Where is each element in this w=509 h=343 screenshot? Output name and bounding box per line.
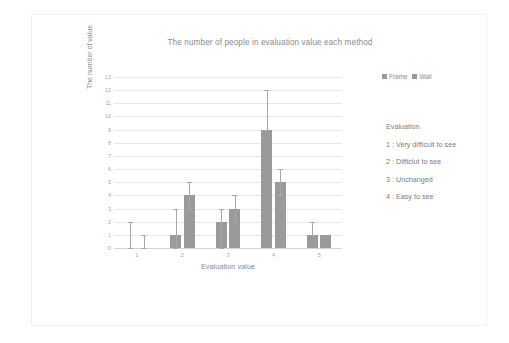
error-bar-cap xyxy=(278,169,283,170)
x-tick-label: 4 xyxy=(272,252,275,258)
error-bar xyxy=(130,222,131,248)
error-bar-cap xyxy=(232,195,237,196)
error-bar-cap xyxy=(219,248,224,249)
legend-label-frame: Frame xyxy=(389,73,407,80)
gridline xyxy=(114,130,342,131)
gridline xyxy=(114,222,342,223)
gridline xyxy=(114,77,342,78)
error-bar xyxy=(235,195,236,221)
y-tick-label: 7 xyxy=(108,153,111,159)
error-bar xyxy=(144,235,145,248)
y-tick-label: 1 xyxy=(108,232,111,238)
y-axis-title: The number of value xyxy=(86,2,93,112)
y-tick-label: 6 xyxy=(108,166,111,172)
error-bar-cap xyxy=(232,222,237,223)
error-bar-cap xyxy=(310,222,315,223)
error-bar xyxy=(280,169,281,195)
error-bar-cap xyxy=(173,209,178,210)
note-item-1: 1 : Very difficult to see xyxy=(386,140,494,149)
x-tick-label: 2 xyxy=(181,252,184,258)
y-tick-label: 11 xyxy=(105,100,111,106)
gridline xyxy=(114,209,342,210)
error-bar-cap xyxy=(310,235,315,236)
error-bar-cap xyxy=(128,222,133,223)
evaluation-notes: Evaluation 1 : Very difficult to see 2 :… xyxy=(386,122,494,201)
gridline xyxy=(114,248,342,249)
error-bar xyxy=(189,182,190,208)
error-bar-cap xyxy=(264,130,269,131)
gridline xyxy=(114,143,342,144)
bar xyxy=(307,235,318,248)
error-bar xyxy=(176,209,177,248)
y-tick-label: 2 xyxy=(108,219,111,225)
bar xyxy=(320,235,331,248)
legend-swatch-wall xyxy=(412,74,417,79)
chart-figure: The number of people in evaluation value… xyxy=(0,0,509,343)
error-bar xyxy=(312,222,313,235)
y-tick-label: 0 xyxy=(108,245,111,251)
error-bar-cap xyxy=(187,209,192,210)
gridline xyxy=(114,182,342,183)
error-bar-cap xyxy=(128,248,133,249)
notes-heading: Evaluation xyxy=(386,122,494,131)
legend-label-wall: Wall xyxy=(419,73,431,80)
y-tick-label: 5 xyxy=(108,179,111,185)
error-bar-cap xyxy=(278,195,283,196)
y-tick-label: 13 xyxy=(105,74,111,80)
error-bar-cap xyxy=(219,209,224,210)
x-tick-label: 1 xyxy=(135,252,138,258)
gridline xyxy=(114,156,342,157)
error-bar-cap xyxy=(187,182,192,183)
gridline xyxy=(114,169,342,170)
plot-area: 012345678910111213 12345 xyxy=(114,77,342,248)
error-bar-cap xyxy=(141,248,146,249)
note-item-3: 3 : Unchanged xyxy=(386,175,494,184)
x-axis-title: Evaluation value xyxy=(114,262,342,271)
gridline xyxy=(114,103,342,104)
chart-title: The number of people in evaluation value… xyxy=(120,38,420,47)
y-tick-label: 9 xyxy=(108,127,111,133)
y-tick-label: 3 xyxy=(108,206,111,212)
gridline xyxy=(114,116,342,117)
gridline xyxy=(114,90,342,91)
bar xyxy=(261,130,272,248)
chart-legend: Frame Wall xyxy=(382,73,432,80)
note-item-4: 4 : Easy to see xyxy=(386,192,494,201)
y-tick-label: 4 xyxy=(108,192,111,198)
error-bar-cap xyxy=(141,235,146,236)
gridline xyxy=(114,195,342,196)
note-item-2: 2 : Difficlut to see xyxy=(386,157,494,166)
y-tick-label: 12 xyxy=(105,87,111,93)
y-tick-label: 10 xyxy=(105,113,111,119)
legend-entry-wall: Wall xyxy=(412,73,431,80)
legend-swatch-frame xyxy=(382,74,387,79)
error-bar xyxy=(221,209,222,248)
legend-entry-frame: Frame xyxy=(382,73,407,80)
error-bar-cap xyxy=(264,90,269,91)
error-bar xyxy=(267,90,268,129)
x-tick-label: 5 xyxy=(318,252,321,258)
y-tick-label: 8 xyxy=(108,140,111,146)
x-tick-label: 3 xyxy=(226,252,229,258)
error-bar-cap xyxy=(173,248,178,249)
